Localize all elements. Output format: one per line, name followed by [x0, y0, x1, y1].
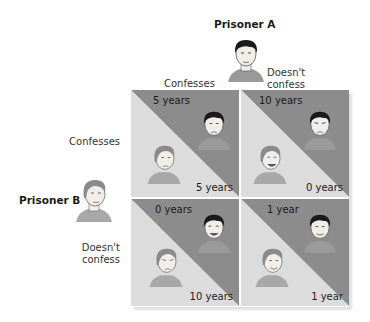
- row-label-doesnt-confess: Doesn'tconfess: [58, 242, 120, 266]
- prisoner-b-worried-face-icon: [145, 142, 183, 184]
- prisoner-b-happy-face-icon: [251, 142, 289, 184]
- cell-b-confess-a-not: 10 years 0 years: [241, 90, 349, 197]
- b-sentence: 5 years: [196, 182, 233, 193]
- prisoner-a-title: Prisoner A: [214, 18, 276, 30]
- prisoner-b-title: Prisoner B: [19, 194, 80, 206]
- cell-b-not-a-not: 1 year 1 year: [241, 199, 349, 306]
- b-sentence: 10 years: [190, 291, 233, 302]
- prisoner-a-happy-face-icon: [195, 211, 233, 253]
- prisoner-a-portrait-icon: [226, 36, 266, 82]
- cell-confess-confess: 5 years 5 years: [131, 90, 239, 197]
- cell-b-not-a-confess: 0 years 10 years: [131, 199, 239, 306]
- b-sentence: 1 year: [311, 291, 343, 302]
- col-label-doesnt-confess: Doesn'tconfess: [267, 67, 305, 91]
- a-sentence: 10 years: [259, 95, 302, 106]
- prisoner-a-content-face-icon: [301, 211, 339, 253]
- row-label-confesses: Confesses: [58, 136, 120, 148]
- prisoner-a-worried-face-icon: [195, 108, 233, 150]
- b-sentence: 0 years: [306, 182, 343, 193]
- a-sentence: 5 years: [153, 95, 190, 106]
- a-sentence: 1 year: [267, 204, 299, 215]
- a-sentence: 0 years: [155, 204, 192, 215]
- prisoner-b-content-face-icon: [253, 245, 291, 287]
- payoff-matrix: 5 years 5 years 10 years: [131, 90, 349, 307]
- prisoner-a-worried-face-icon: [301, 108, 339, 150]
- col-label-confesses: Confesses: [164, 78, 215, 90]
- col-label-text: Doesn'tconfess: [267, 67, 305, 91]
- prisoner-b-portrait-icon: [74, 176, 114, 222]
- prisoner-b-worried-face-icon: [147, 245, 185, 287]
